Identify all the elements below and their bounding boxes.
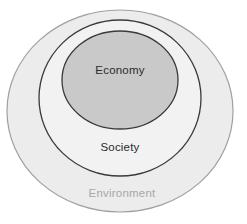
nested-circles-diagram: Economy Society Environment [0,0,247,224]
economy-ellipse [62,31,178,129]
society-label: Society [100,141,139,153]
environment-label: Environment [89,187,156,199]
diagram-canvas: Economy Society Environment [0,0,247,224]
economy-label: Economy [95,64,144,76]
